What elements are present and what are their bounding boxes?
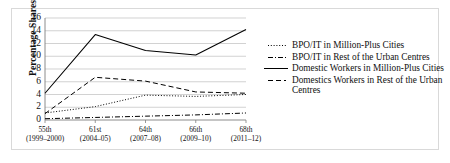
legend-item[interactable]: BPO/IT in Rest of the Urban Centres <box>264 52 448 63</box>
legend-line-sample-dashdot-icon <box>264 52 290 63</box>
chart-figure: Percentage Shares 1614121086420 55th(199… <box>0 0 450 163</box>
legend-line-sample-solid-icon <box>264 63 290 74</box>
legend-item[interactable]: Domestics Workers in Rest of the Urban C… <box>264 75 448 95</box>
legend-item-label: Domestic Workers in Million-Plus Cities <box>292 63 444 73</box>
legend-item-label: BPO/IT in Rest of the Urban Centres <box>292 52 430 62</box>
chart-legend: BPO/IT in Million-Plus CitiesBPO/IT in R… <box>264 40 448 95</box>
legend-item[interactable]: BPO/IT in Million-Plus Cities <box>264 40 448 51</box>
legend-line-sample-dashed-icon <box>264 75 290 86</box>
series-line-4 <box>45 77 246 113</box>
legend-line-sample-dotted-icon <box>264 40 290 51</box>
series-line-1 <box>45 95 246 113</box>
chart-frame: Percentage Shares 1614121086420 55th(199… <box>11 8 439 150</box>
legend-item[interactable]: Domestic Workers in Million-Plus Cities <box>264 63 448 74</box>
legend-item-label: Domestics Workers in Rest of the Urban C… <box>292 75 448 95</box>
legend-item-label: BPO/IT in Million-Plus Cities <box>292 40 404 50</box>
series-line-2 <box>45 113 246 119</box>
series-line-3 <box>45 29 246 93</box>
